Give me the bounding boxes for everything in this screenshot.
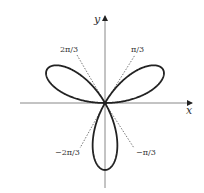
x-axis-label: x xyxy=(186,104,193,117)
angle-label-neg-2pi-3: −2π/3 xyxy=(55,148,80,157)
rose-diagram: y x π/3 2π/3 −2π/3 −π/3 xyxy=(0,0,204,193)
angle-label-neg-pi-3: −π/3 xyxy=(136,148,156,157)
diagram-svg: y x π/3 2π/3 −2π/3 −π/3 xyxy=(0,0,204,193)
angle-label-pi-3: π/3 xyxy=(131,45,144,54)
y-axis-label: y xyxy=(93,13,101,26)
angle-label-2pi-3: 2π/3 xyxy=(60,45,78,54)
